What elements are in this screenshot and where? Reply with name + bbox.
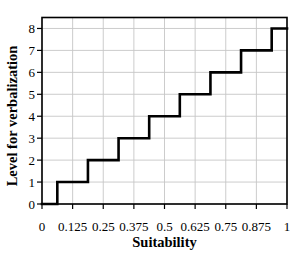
x-tick-label: 0.25 bbox=[92, 219, 115, 234]
x-tick-label: 0.75 bbox=[214, 219, 237, 234]
y-tick-label: 8 bbox=[29, 21, 36, 36]
y-axis-label: Level for verbalization bbox=[4, 46, 20, 187]
y-tick-label: 3 bbox=[29, 131, 36, 146]
y-tick-labels: 012345678 bbox=[29, 21, 36, 212]
y-tick-label: 6 bbox=[29, 65, 36, 80]
chart-svg: 00.1250.250.3750.50.6250.750.8751 012345… bbox=[0, 0, 299, 263]
x-tick-label: 0.875 bbox=[242, 219, 271, 234]
x-tick-label: 0.375 bbox=[119, 219, 148, 234]
y-tick-label: 4 bbox=[29, 109, 36, 124]
step-chart-figure: 00.1250.250.3750.50.6250.750.8751 012345… bbox=[0, 0, 299, 263]
x-tick-label: 0.125 bbox=[58, 219, 87, 234]
grid-lines bbox=[42, 18, 287, 205]
x-tick-label: 1 bbox=[284, 219, 291, 234]
y-tick-label: 5 bbox=[29, 87, 36, 102]
x-tick-labels: 00.1250.250.3750.50.6250.750.8751 bbox=[39, 219, 291, 234]
y-tick-label: 2 bbox=[29, 153, 36, 168]
x-tick-label: 0.5 bbox=[156, 219, 172, 234]
x-axis-label: Suitability bbox=[132, 234, 197, 250]
y-tick-label: 1 bbox=[29, 175, 36, 190]
y-tick-label: 7 bbox=[29, 43, 36, 58]
x-tick-label: 0 bbox=[39, 219, 46, 234]
y-tick-label: 0 bbox=[29, 197, 36, 212]
x-tick-label: 0.625 bbox=[181, 219, 210, 234]
